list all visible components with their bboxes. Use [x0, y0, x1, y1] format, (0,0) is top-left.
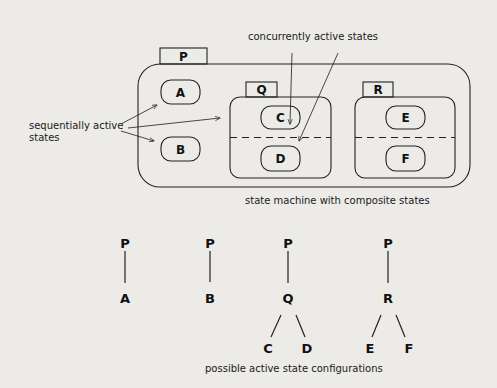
state-b-label: B: [176, 143, 185, 157]
tree2-root-label: P: [205, 236, 215, 251]
state-b: B: [161, 137, 200, 161]
tree2-child-label: B: [205, 291, 215, 306]
sequential-arrow-to-q: [128, 118, 220, 128]
state-f-label: F: [401, 152, 409, 166]
state-r-label: R: [373, 83, 382, 97]
tree3-leaf-c-label: C: [263, 341, 273, 356]
state-c-label: C: [276, 111, 285, 125]
state-q-label: Q: [256, 83, 266, 97]
state-p-body: [138, 64, 470, 187]
tree1-child-label: A: [120, 291, 130, 306]
configuration-tree-1: P A: [120, 236, 130, 306]
state-a-label: A: [176, 86, 186, 100]
tree4-leaf-e-label: E: [366, 341, 375, 356]
tree4-root-label: P: [383, 236, 393, 251]
tree4-child-label: R: [383, 291, 393, 306]
state-c: C: [261, 106, 300, 129]
state-e-label: E: [401, 111, 409, 125]
sequential-annotation-label-line2: states: [29, 132, 60, 143]
composite-state-r: R E F: [355, 82, 455, 178]
state-a: A: [161, 80, 200, 104]
tree3-leaf-d-label: D: [302, 341, 313, 356]
composite-state-p: P: [138, 48, 470, 187]
top-caption: state machine with composite states: [245, 195, 430, 206]
state-e: E: [386, 106, 425, 129]
sequential-arrow-to-a: [121, 105, 157, 124]
tree1-root-label: P: [120, 236, 130, 251]
state-p-label: P: [179, 50, 188, 64]
state-machine-diagram: concurrently active states sequentially …: [0, 0, 497, 388]
tree4-leaf-f-label: F: [405, 341, 414, 356]
sequential-annotation-label-line1: sequentially active: [29, 120, 123, 131]
tree3-root-label: P: [283, 236, 293, 251]
composite-state-q: Q C D: [230, 82, 331, 178]
configuration-tree-3: P Q C D: [263, 236, 312, 356]
state-d-label: D: [276, 152, 286, 166]
configuration-tree-2: P B: [205, 236, 215, 306]
state-f: F: [386, 146, 425, 171]
configuration-tree-4: P R E F: [366, 236, 414, 356]
bottom-caption: possible active state configurations: [205, 363, 383, 374]
concurrent-annotation-label: concurrently active states: [248, 31, 378, 42]
state-d: D: [261, 146, 300, 171]
tree3-child-label: Q: [282, 291, 293, 306]
